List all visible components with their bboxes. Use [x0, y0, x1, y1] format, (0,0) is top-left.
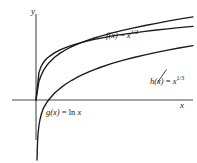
function-graph-figure: y x f(x) = x1/2 h(x) = x1/3 g(x) = ln x	[0, 0, 197, 163]
curve-label-h-exponent: 1/3	[177, 75, 185, 81]
curve-label-g-eq: =	[60, 107, 69, 117]
curve-label-g: g(x) = ln x	[46, 108, 81, 117]
curve-label-f-var: (x)	[108, 30, 117, 40]
curve-label-h-var: (x)	[154, 76, 163, 86]
curve-label-h: h(x) = x1/3	[150, 77, 184, 86]
curve-label-f: f(x) = x1/2	[106, 31, 138, 40]
curve-label-f-exponent: 1/2	[131, 29, 139, 35]
curve-label-g-var: (x)	[50, 107, 59, 117]
curve-label-h-eq: =	[164, 76, 173, 86]
x-axis-label: x	[180, 101, 184, 110]
curve-label-f-eq: =	[118, 30, 127, 40]
y-axis-label: y	[31, 7, 35, 16]
curve-g-ln	[37, 46, 193, 160]
curve-label-g-arg: x	[77, 107, 81, 117]
